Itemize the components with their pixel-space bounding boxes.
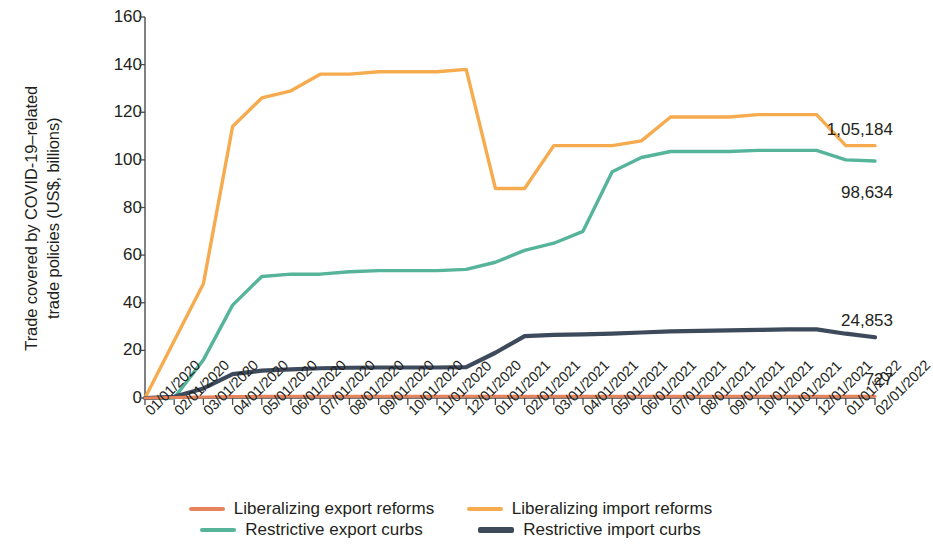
legend-swatch-icon bbox=[478, 527, 514, 533]
y-axis-title-line-1: Trade covered by COVID-19–related bbox=[20, 18, 42, 418]
y-axis-title: Trade covered by COVID-19–related trade … bbox=[20, 18, 65, 418]
legend-label: Restrictive export curbs bbox=[245, 521, 423, 538]
legend-item-liberalizing-import-reforms[interactable]: Liberalizing import reforms bbox=[467, 500, 712, 517]
chart-legend: Liberalizing export reformsLiberalizing … bbox=[0, 500, 901, 538]
legend-row: Restrictive export curbsRestrictive impo… bbox=[200, 521, 701, 538]
legend-label: Liberalizing import reforms bbox=[512, 500, 712, 517]
legend-item-liberalizing-export-reforms[interactable]: Liberalizing export reforms bbox=[189, 500, 467, 517]
y-axis-tick-120: 120 bbox=[114, 102, 142, 122]
end-label-liberalizing-export-reforms: 727 bbox=[865, 370, 893, 390]
y-axis-tick-160: 160 bbox=[114, 7, 142, 27]
legend-row: Liberalizing export reformsLiberalizing … bbox=[189, 500, 712, 517]
y-axis-tick-140: 140 bbox=[114, 55, 142, 75]
legend-label: Restrictive import curbs bbox=[523, 521, 701, 538]
plot-svg bbox=[145, 17, 875, 398]
y-axis-title-line-2: trade policies (US$, billions) bbox=[42, 18, 64, 418]
y-axis-tick-labels: 020406080100120140160 bbox=[95, 0, 142, 552]
legend-item-restrictive-import-curbs[interactable]: Restrictive import curbs bbox=[478, 521, 701, 538]
series-line-liberalizing-import-reforms bbox=[145, 69, 875, 398]
legend-item-restrictive-export-curbs[interactable]: Restrictive export curbs bbox=[200, 521, 478, 538]
legend-swatch-icon bbox=[467, 507, 503, 511]
legend-swatch-icon bbox=[189, 507, 225, 511]
end-label-restrictive-export-curbs: 98,634 bbox=[841, 183, 893, 203]
legend-swatch-icon bbox=[200, 528, 236, 532]
legend-label: Liberalizing export reforms bbox=[234, 500, 434, 517]
end-label-restrictive-import-curbs: 24,853 bbox=[841, 311, 893, 331]
plot-area bbox=[145, 17, 875, 398]
end-label-liberalizing-import-reforms: 1,05,184 bbox=[827, 120, 893, 140]
y-axis-tick-100: 100 bbox=[114, 150, 142, 170]
series-lines bbox=[145, 69, 875, 398]
